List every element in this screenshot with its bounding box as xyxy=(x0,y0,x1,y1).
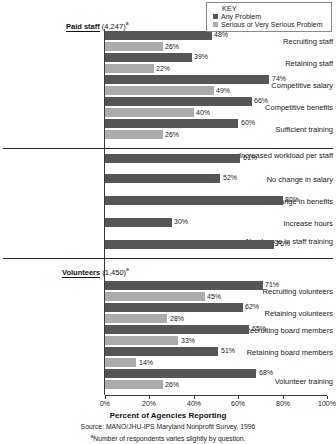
x-axis-tick xyxy=(283,396,284,399)
x-axis-tick xyxy=(105,396,106,399)
bar-any-problem xyxy=(105,240,274,249)
bar-value-serious-problem: 22% xyxy=(156,65,170,72)
bar-value-any-problem: 74% xyxy=(272,75,286,82)
bar-value-any-problem: 39% xyxy=(194,53,208,60)
category-label: No change in salary xyxy=(236,176,336,185)
x-axis-tick-label: 0% xyxy=(100,400,110,407)
bar-any-problem xyxy=(105,31,212,40)
bar-value-serious-problem: 14% xyxy=(139,359,153,366)
bar-serious-problem xyxy=(105,64,154,73)
footnote-text: Number of respondents varies slightly by… xyxy=(93,435,245,442)
bar-value-any-problem: 60% xyxy=(241,119,255,126)
category-label: Increase hours xyxy=(236,220,336,229)
category-label: Retaining board members xyxy=(236,349,336,358)
x-axis-tick-label: 40% xyxy=(187,400,201,407)
section-heading-volunteers-text: Volunteers xyxy=(62,268,100,278)
section-divider-bottom xyxy=(3,258,333,259)
category-label: Retaining volunteers xyxy=(236,310,336,319)
bar-value-serious-problem: 33% xyxy=(181,337,195,344)
bar-serious-problem xyxy=(105,336,178,345)
bar-value-any-problem: 61% xyxy=(243,154,257,161)
bar-any-problem xyxy=(105,154,240,163)
x-axis-tick-label: 20% xyxy=(142,400,156,407)
category-label: Recruiting staff xyxy=(236,38,336,47)
bar-any-problem xyxy=(105,196,283,205)
section-heading-paid-staff: Paid staff (4,247)a xyxy=(66,20,128,31)
bar-value-any-problem: 76% xyxy=(276,240,290,247)
x-axis-tick-label: 100% xyxy=(318,400,336,407)
legend-entry-serious-problem: Serious or Very Serious Problem xyxy=(213,21,327,28)
x-axis-tick xyxy=(238,396,239,399)
category-label: Volunteer training xyxy=(236,378,336,387)
bar-value-serious-problem: 26% xyxy=(165,43,179,50)
bar-any-problem xyxy=(105,281,263,290)
chart-legend: KEY Any Problem Serious or Very Serious … xyxy=(206,2,332,32)
x-axis-tick xyxy=(149,396,150,399)
bar-any-problem xyxy=(105,53,192,62)
section-heading-paid-staff-count: (4,247) xyxy=(102,22,126,31)
section-heading-volunteers: Volunteers (1,450)a xyxy=(62,266,129,277)
plot-area: Paid staff (4,247)a Recruiting staff 48%… xyxy=(0,0,336,444)
bar-serious-problem xyxy=(105,86,214,95)
bar-serious-problem xyxy=(105,130,163,139)
bar-value-serious-problem: 28% xyxy=(170,315,184,322)
bar-value-serious-problem: 26% xyxy=(165,381,179,388)
section-divider-top xyxy=(3,148,333,149)
bar-any-problem xyxy=(105,303,243,312)
bar-any-problem xyxy=(105,97,252,106)
bar-any-problem xyxy=(105,347,218,356)
category-label: Retaining staff xyxy=(236,60,336,69)
bar-serious-problem xyxy=(105,292,205,301)
category-label: Sufficient training xyxy=(236,126,336,135)
bar-value-serious-problem: 49% xyxy=(216,87,230,94)
bar-value-serious-problem: 40% xyxy=(196,109,210,116)
x-axis-tick xyxy=(194,396,195,399)
footnote-note: aNumber of respondents varies slightly b… xyxy=(0,433,336,442)
bar-serious-problem xyxy=(105,42,163,51)
bar-serious-problem xyxy=(105,108,194,117)
legend-entry-any-problem: Any Problem xyxy=(213,13,327,20)
bar-serious-problem xyxy=(105,380,163,389)
bar-value-any-problem: 52% xyxy=(223,174,237,181)
bar-value-any-problem: 30% xyxy=(174,218,188,225)
bar-serious-problem xyxy=(105,358,136,367)
bar-value-any-problem: 51% xyxy=(221,347,235,354)
section-heading-paid-staff-marker: a xyxy=(126,20,129,26)
bar-value-any-problem: 71% xyxy=(265,281,279,288)
category-label: Recruiting board members xyxy=(236,327,336,336)
bar-any-problem xyxy=(105,75,269,84)
legend-swatch-serious-problem xyxy=(213,22,218,27)
bar-value-serious-problem: 45% xyxy=(207,293,221,300)
section-heading-paid-staff-text: Paid staff xyxy=(66,22,100,32)
bar-value-any-problem: 66% xyxy=(254,97,268,104)
x-axis-title: Percent of Agencies Reporting xyxy=(0,411,336,420)
bar-serious-problem xyxy=(105,314,167,323)
bar-value-any-problem: 68% xyxy=(259,369,273,376)
bar-value-serious-problem: 26% xyxy=(165,131,179,138)
bar-value-any-problem: 62% xyxy=(245,303,259,310)
legend-label-serious-problem: Serious or Very Serious Problem xyxy=(221,21,323,28)
bar-any-problem xyxy=(105,369,256,378)
bar-any-problem xyxy=(105,174,220,183)
bar-any-problem xyxy=(105,325,249,334)
x-axis-tick-label: 80% xyxy=(276,400,290,407)
legend-swatch-any-problem xyxy=(213,14,218,19)
bar-value-any-problem: 80% xyxy=(285,196,299,203)
section-heading-volunteers-count: (1,450) xyxy=(102,268,126,277)
bar-value-any-problem: 65% xyxy=(252,325,266,332)
x-axis-tick xyxy=(327,396,328,399)
bar-any-problem xyxy=(105,119,238,128)
legend-title: KEY xyxy=(222,5,327,12)
x-axis-tick-label: 60% xyxy=(231,400,245,407)
bar-value-any-problem: 48% xyxy=(214,31,228,38)
bar-any-problem xyxy=(105,218,172,227)
x-axis-line xyxy=(105,395,327,396)
source-note: Source: MANO/JHU-IPS Maryland Nonprofit … xyxy=(0,423,336,430)
legend-label-any-problem: Any Problem xyxy=(221,13,261,20)
chart-container: KEY Any Problem Serious or Very Serious … xyxy=(0,0,336,444)
section-heading-volunteers-marker: a xyxy=(126,266,129,272)
